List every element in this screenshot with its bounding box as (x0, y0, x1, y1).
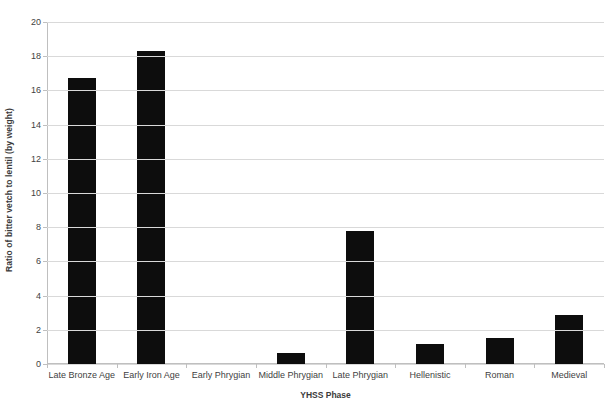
gridline (47, 159, 604, 160)
bar[interactable] (486, 338, 514, 364)
y-tick-mark (43, 22, 47, 23)
x-tick-mark (47, 364, 48, 368)
gridline (47, 90, 604, 91)
y-tick-label: 8 (36, 222, 41, 232)
x-tick-label: Roman (485, 370, 514, 380)
y-tick-label: 4 (36, 291, 41, 301)
y-axis-tick-labels: 02468101214161820 (18, 0, 45, 410)
gridline (47, 125, 604, 126)
bar[interactable] (416, 344, 444, 364)
y-tick-mark (43, 261, 47, 262)
y-axis-title-text: Ratio of bitter vetch to lentil (by weig… (4, 108, 14, 272)
x-tick-mark (395, 364, 396, 368)
y-tick-label: 14 (31, 120, 41, 130)
y-tick-mark (43, 125, 47, 126)
x-tick-label: Early Phrygian (192, 370, 251, 380)
y-tick-label: 2 (36, 325, 41, 335)
bar[interactable] (346, 231, 374, 364)
y-tick-label: 18 (31, 51, 41, 61)
x-tick-label: Early Iron Age (123, 370, 180, 380)
x-tick-label: Medieval (551, 370, 587, 380)
y-tick-mark (43, 56, 47, 57)
bar[interactable] (277, 353, 305, 364)
y-tick-label: 12 (31, 154, 41, 164)
x-tick-mark (117, 364, 118, 368)
gridline (47, 330, 604, 331)
y-axis-title: Ratio of bitter vetch to lentil (by weig… (0, 0, 18, 380)
y-tick-label: 0 (36, 359, 41, 369)
y-tick-mark (43, 330, 47, 331)
x-tick-mark (465, 364, 466, 368)
x-tick-label: Late Phrygian (333, 370, 389, 380)
x-axis-title: YHSS Phase (47, 390, 604, 400)
y-tick-mark (43, 296, 47, 297)
bar[interactable] (137, 51, 165, 364)
y-tick-mark (43, 227, 47, 228)
x-tick-label: Late Bronze Age (49, 370, 116, 380)
gridline (47, 22, 604, 23)
y-tick-label: 6 (36, 256, 41, 266)
gridline (47, 193, 604, 194)
y-tick-label: 16 (31, 85, 41, 95)
gridline (47, 296, 604, 297)
x-axis-tick-labels: Late Bronze AgeEarly Iron AgeEarly Phryg… (47, 370, 604, 386)
y-tick-mark (43, 90, 47, 91)
bar[interactable] (68, 78, 96, 364)
x-tick-mark (256, 364, 257, 368)
y-tick-mark (43, 159, 47, 160)
x-tick-mark (604, 364, 605, 368)
plot-area (47, 22, 604, 364)
y-tick-label: 20 (31, 17, 41, 27)
gridline (47, 261, 604, 262)
gridline (47, 56, 604, 57)
bar-chart: Ratio of bitter vetch to lentil (by weig… (0, 0, 613, 410)
bar[interactable] (555, 315, 583, 364)
x-tick-label: Hellenistic (409, 370, 450, 380)
x-tick-mark (326, 364, 327, 368)
gridline (47, 227, 604, 228)
x-tick-mark (534, 364, 535, 368)
y-tick-label: 10 (31, 188, 41, 198)
y-tick-mark (43, 193, 47, 194)
x-tick-label: Middle Phrygian (258, 370, 323, 380)
x-tick-mark (186, 364, 187, 368)
